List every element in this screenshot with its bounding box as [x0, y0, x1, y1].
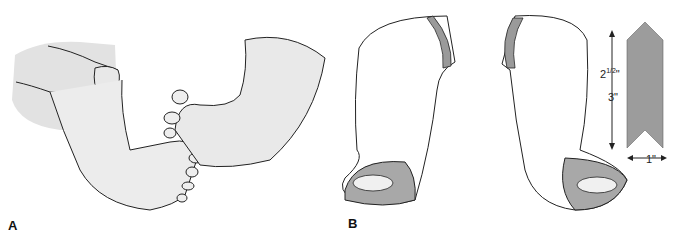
panel-label-a: A	[8, 218, 17, 233]
dimension-width: 1"	[646, 153, 656, 165]
panel-b: 21/2" 3" 1" B	[335, 0, 673, 235]
panel-a: A	[0, 0, 335, 235]
length-1-fraction: 1/2	[606, 67, 616, 74]
dimension-length-2: 3"	[608, 91, 618, 103]
panel-label-b: B	[348, 216, 357, 231]
leg-casts-illustration	[335, 0, 673, 235]
infant-feet-illustration	[0, 0, 335, 235]
length-1-unit: "	[616, 68, 620, 80]
dimension-length-1: 21/2"	[600, 67, 620, 80]
